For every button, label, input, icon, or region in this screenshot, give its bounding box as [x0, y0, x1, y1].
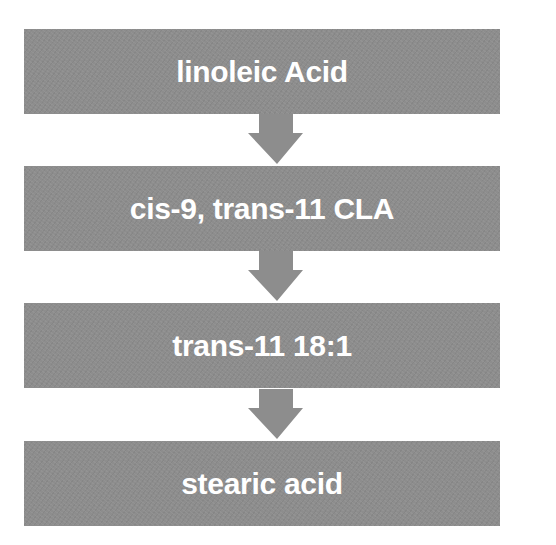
- step-box-trans11-18-1: trans-11 18:1: [24, 303, 500, 388]
- step-box-stearic-acid: stearic acid: [24, 441, 500, 526]
- step-label: trans-11 18:1: [172, 331, 352, 361]
- arrow-down-icon: [247, 251, 304, 303]
- step-label: stearic acid: [181, 469, 343, 499]
- arrow-down-icon: [247, 389, 304, 441]
- step-label: linoleic Acid: [176, 57, 348, 87]
- arrow-down-icon: [247, 114, 304, 166]
- step-box-cis9-trans11-cla: cis-9, trans-11 CLA: [24, 166, 500, 251]
- step-box-linoleic-acid: linoleic Acid: [24, 29, 500, 114]
- step-label: cis-9, trans-11 CLA: [130, 194, 394, 224]
